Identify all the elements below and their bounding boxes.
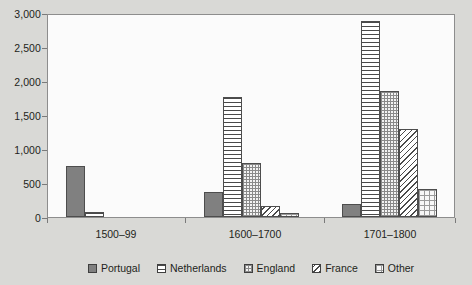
bar-portugal-1701-1800 bbox=[342, 204, 361, 217]
bars-container bbox=[48, 15, 454, 217]
legend-item-other: Other bbox=[375, 262, 414, 274]
y-axis: 3,000 2,500 2,000 1,500 1,000 500 0 bbox=[0, 0, 41, 285]
x-tick-label-1701-1800: 1701–1800 bbox=[364, 228, 417, 240]
bar-england-1600-1700 bbox=[242, 163, 261, 217]
y-tick-label-1000: 1,000 bbox=[0, 144, 41, 156]
y-tick-label-2000: 2,000 bbox=[0, 76, 41, 88]
legend-item-england: England bbox=[244, 262, 296, 274]
legend-swatch-france-icon bbox=[312, 264, 321, 273]
legend-label-portugal: Portugal bbox=[101, 262, 140, 274]
legend-item-portugal: Portugal bbox=[88, 262, 140, 274]
x-tick-mark-2 bbox=[324, 218, 325, 223]
legend-item-france: France bbox=[312, 262, 358, 274]
bar-chart-figure: 3,000 2,500 2,000 1,500 1,000 500 0 bbox=[0, 0, 472, 285]
bar-netherlands-1701-1800 bbox=[361, 21, 380, 217]
bar-other-1701-1800 bbox=[418, 189, 437, 217]
bar-england-1701-1800 bbox=[380, 91, 399, 217]
plot-area bbox=[47, 14, 455, 218]
bar-other-1600-1700 bbox=[280, 213, 299, 217]
y-tick-label-3000: 3,000 bbox=[0, 8, 41, 20]
bar-france-1701-1800 bbox=[399, 129, 418, 217]
legend-item-netherlands: Netherlands bbox=[157, 262, 227, 274]
x-tick-label-1500-99: 1500–99 bbox=[96, 228, 137, 240]
legend-swatch-netherlands-icon bbox=[157, 264, 166, 273]
legend-label-netherlands: Netherlands bbox=[170, 262, 227, 274]
y-tick-label-2500: 2,500 bbox=[0, 42, 41, 54]
bar-portugal-1600-1700 bbox=[204, 192, 223, 217]
chart-legend: Portugal Netherlands England France Othe… bbox=[47, 258, 455, 278]
legend-swatch-other-icon bbox=[375, 264, 384, 273]
x-tick-mark-end bbox=[455, 218, 456, 223]
bar-france-1600-1700 bbox=[261, 206, 280, 217]
y-tick-label-1500: 1,500 bbox=[0, 110, 41, 122]
bar-netherlands-1500-99 bbox=[85, 212, 104, 217]
x-tick-mark-start bbox=[47, 218, 48, 223]
bar-portugal-1500-99 bbox=[66, 166, 85, 217]
x-tick-mark-1 bbox=[185, 218, 186, 223]
y-tick-label-0: 0 bbox=[0, 212, 41, 224]
legend-label-france: France bbox=[325, 262, 358, 274]
x-tick-label-1600-1700: 1600–1700 bbox=[229, 228, 282, 240]
legend-label-england: England bbox=[257, 262, 296, 274]
legend-swatch-england-icon bbox=[244, 264, 253, 273]
legend-label-other: Other bbox=[388, 262, 414, 274]
bar-netherlands-1600-1700 bbox=[223, 97, 242, 217]
legend-swatch-portugal-icon bbox=[88, 264, 97, 273]
y-tick-label-500: 500 bbox=[0, 178, 41, 190]
